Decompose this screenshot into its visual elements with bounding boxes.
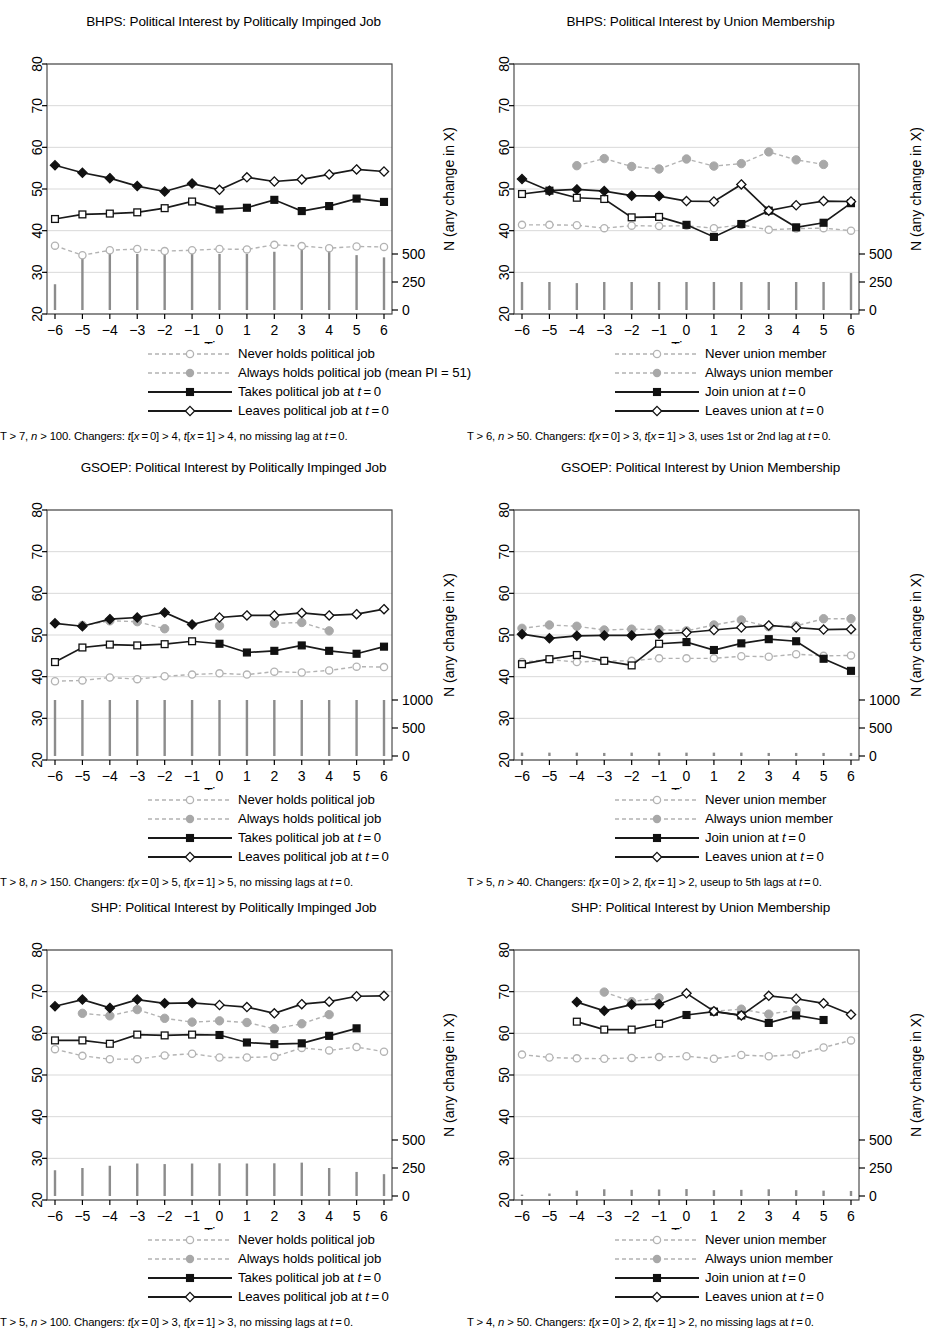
figure-root: BHPS: Political Interest by Politically … (0, 0, 934, 1335)
y-tick-label: 70 (29, 984, 45, 1000)
legend-label: Takes political job at t = 0 (238, 1270, 381, 1285)
x-tick-label: −4 (569, 322, 585, 338)
x-tick-label: −3 (596, 1208, 612, 1224)
legend-key-solid-diamond (142, 1287, 238, 1306)
x-tick-label: 2 (737, 768, 745, 784)
plot-area: 20304050607080−6−5−4−3−2−10123456Time100… (467, 478, 934, 790)
legend: Never holds political jobAlways holds po… (0, 790, 467, 866)
x-tick-label: −2 (157, 322, 173, 338)
x-tick-label: 5 (353, 1208, 361, 1224)
x-tick-label: 6 (847, 322, 855, 338)
legend-item: Always union member (467, 363, 934, 382)
x-tick-label: −6 (514, 768, 530, 784)
legend-label: Leaves political job at t = 0 (238, 1289, 389, 1304)
x-tick-label: −1 (184, 768, 200, 784)
panel-footnote: T > 5, n > 100. Changers: t[x = 0] > 3, … (0, 1316, 467, 1328)
legend-label: Never union member (705, 346, 826, 361)
legend-item: Leaves political job at t = 0 (0, 401, 467, 420)
y-tick-label: 40 (29, 1109, 45, 1125)
x-tick-label: 3 (298, 768, 306, 784)
legend-key-dashed-filled (142, 1249, 238, 1268)
legend: Never union memberAlways union memberJoi… (467, 790, 934, 866)
legend-key-solid-square (142, 382, 238, 401)
right-y-tick-label: 0 (402, 748, 410, 764)
y-tick-label: 50 (496, 1067, 512, 1083)
x-tick-label: 3 (298, 322, 306, 338)
x-tick-label: −6 (514, 322, 530, 338)
x-tick-label: −6 (514, 1208, 530, 1224)
y-tick-label: 70 (496, 984, 512, 1000)
right-y-tick-label: 1000 (869, 692, 900, 708)
y-tick-label: 80 (29, 942, 45, 958)
y-tick-label: 20 (29, 752, 45, 768)
x-tick-label: 0 (216, 1208, 224, 1224)
y-tick-label: 30 (496, 1150, 512, 1166)
right-y-tick-label: 500 (869, 720, 893, 736)
legend-item: Join union at t = 0 (467, 382, 934, 401)
right-axis-title: N (any change in X) (908, 573, 924, 697)
legend-key-solid-diamond (609, 1287, 705, 1306)
x-tick-label: −5 (74, 768, 90, 784)
plot-area: 20304050607080−6−5−4−3−2−10123456Time500… (467, 32, 934, 344)
series-dashed-filled (573, 148, 828, 173)
x-tick-label: −3 (129, 322, 145, 338)
panel-shp-job: SHP: Political Interest by Politically I… (0, 900, 467, 1335)
panel-footnote: T > 6, n > 50. Changers: t[x = 0] > 3, t… (467, 430, 934, 442)
x-tick-label: 3 (765, 768, 773, 784)
panel-title: GSOEP: Political Interest by Union Membe… (467, 460, 934, 475)
y-tick-label: 50 (29, 1067, 45, 1083)
legend-key-dashed-open (142, 790, 238, 809)
x-tick-label: 2 (270, 1208, 278, 1224)
y-tick-label: 80 (496, 502, 512, 518)
x-tick-label: 1 (243, 322, 251, 338)
x-tick-label: 1 (243, 768, 251, 784)
right-y-tick-label: 500 (869, 246, 893, 262)
x-tick-label: −1 (651, 322, 667, 338)
y-tick-label: 30 (496, 264, 512, 280)
series-dashed-open (51, 663, 387, 685)
series-solid-diamond (50, 161, 388, 196)
right-y-tick-label: 500 (869, 1132, 893, 1148)
panel-title: SHP: Political Interest by Politically I… (0, 900, 467, 915)
x-tick-label: 6 (380, 768, 388, 784)
series-solid-diamond (50, 991, 388, 1018)
legend-item: Leaves union at t = 0 (467, 847, 934, 866)
x-tick-label: −2 (157, 1208, 173, 1224)
legend-item: Leaves union at t = 0 (467, 401, 934, 420)
y-tick-label: 30 (496, 710, 512, 726)
y-tick-label: 30 (29, 1150, 45, 1166)
x-tick-label: 4 (325, 1208, 333, 1224)
legend-label: Takes political job at t = 0 (238, 830, 381, 845)
x-tick-label: −5 (541, 1208, 557, 1224)
right-axis-title: N (any change in X) (908, 1013, 924, 1137)
x-tick-label: 5 (820, 1208, 828, 1224)
y-tick-label: 40 (496, 223, 512, 239)
panel-footnote: T > 4, n > 50. Changers: t[x = 0] > 2, t… (467, 1316, 934, 1328)
y-tick-label: 70 (29, 98, 45, 114)
x-tick-label: −4 (569, 768, 585, 784)
legend-key-dashed-filled (142, 809, 238, 828)
legend: Never union memberAlways union memberJoi… (467, 1230, 934, 1306)
panel-title: BHPS: Political Interest by Union Member… (467, 14, 934, 29)
y-tick-label: 60 (29, 1025, 45, 1041)
legend-key-solid-square (609, 828, 705, 847)
series-dashed-filled (78, 1005, 333, 1033)
panel-footnote: T > 5, n > 40. Changers: t[x = 0] > 2, t… (467, 876, 934, 888)
x-tick-label: −2 (624, 768, 640, 784)
y-tick-label: 80 (496, 942, 512, 958)
legend-key-solid-diamond (142, 847, 238, 866)
legend-item: Leaves political job at t = 0 (0, 1287, 467, 1306)
plot-area: 20304050607080−6−5−4−3−2−10123456Time100… (0, 478, 467, 790)
x-tick-label: −1 (184, 1208, 200, 1224)
x-tick-label: −6 (47, 322, 63, 338)
y-tick-label: 50 (496, 627, 512, 643)
right-y-tick-label: 0 (402, 1188, 410, 1204)
right-axis-title: N (any change in X) (441, 127, 457, 251)
legend-label: Always union member (705, 365, 833, 380)
legend-key-solid-diamond (609, 401, 705, 420)
plot-area: 20304050607080−6−5−4−3−2−10123456Time500… (0, 918, 467, 1230)
y-tick-label: 80 (29, 56, 45, 72)
legend-label: Never union member (705, 1232, 826, 1247)
x-tick-label: −4 (102, 322, 118, 338)
panel-bhps-job: BHPS: Political Interest by Politically … (0, 14, 467, 459)
